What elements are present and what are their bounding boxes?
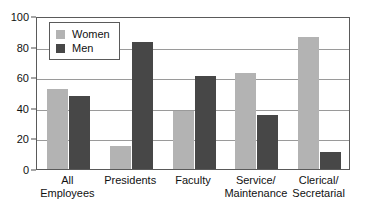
y-axis-tick-label: 20 xyxy=(17,134,29,145)
bar-women-2 xyxy=(173,111,194,169)
bar-women-1 xyxy=(110,146,131,169)
bar-men-1 xyxy=(132,42,153,169)
x-axis-label-0: All Employees xyxy=(36,174,99,199)
y-axis-tick-label: 0 xyxy=(23,165,29,176)
y-axis-tick-label: 40 xyxy=(17,103,29,114)
y-axis-tick-label: 100 xyxy=(11,12,29,23)
x-axis-label-2: Faculty xyxy=(162,174,225,187)
bar-men-3 xyxy=(257,115,278,169)
legend-label: Women xyxy=(72,29,110,40)
bar-chart: 100806040200 WomenMen All EmployeesPresi… xyxy=(0,0,365,211)
legend-item-men: Men xyxy=(56,41,110,55)
x-axis-label-3: Service/ Maintenance xyxy=(224,174,287,199)
bar-men-4 xyxy=(320,152,341,169)
x-axis-label-1: Presidents xyxy=(99,174,162,187)
legend-label: Men xyxy=(72,43,93,54)
legend-swatch-men-icon xyxy=(56,44,65,53)
y-axis: 100806040200 xyxy=(0,0,33,211)
bar-men-0 xyxy=(69,96,90,169)
x-axis-labels: All EmployeesPresidentsFacultyService/ M… xyxy=(36,174,350,210)
legend-item-women: Women xyxy=(56,27,110,41)
bar-women-0 xyxy=(47,89,68,169)
y-axis-tick-label: 80 xyxy=(17,42,29,53)
bar-women-3 xyxy=(235,73,256,169)
bar-men-2 xyxy=(195,76,216,169)
x-axis-label-4: Clerical/ Secretarial xyxy=(287,174,350,199)
chart-legend: WomenMen xyxy=(49,22,120,60)
y-axis-tick-label: 60 xyxy=(17,73,29,84)
bar-women-4 xyxy=(298,37,319,169)
legend-swatch-women-icon xyxy=(56,30,65,39)
